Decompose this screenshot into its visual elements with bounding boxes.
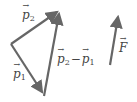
subscript: 2 xyxy=(30,14,35,23)
label-F: F xyxy=(119,42,127,54)
vector-label-base: p xyxy=(13,68,21,80)
vector-F-arrow xyxy=(110,17,118,65)
subscript: 1 xyxy=(21,73,26,82)
vector-diagram xyxy=(0,0,137,102)
vector-label-base: p xyxy=(22,9,30,21)
vector-label-base: p xyxy=(82,53,90,65)
label-p2-minus-p1: p2−p1 xyxy=(57,53,95,67)
vector-label-base: F xyxy=(119,42,127,54)
subscript: 1 xyxy=(90,58,95,67)
minus-operator: − xyxy=(71,52,81,66)
label-p2: p2 xyxy=(22,9,35,23)
subscript: 2 xyxy=(65,58,70,67)
vector-label-base: p xyxy=(57,53,65,65)
label-p1: p1 xyxy=(13,68,26,82)
